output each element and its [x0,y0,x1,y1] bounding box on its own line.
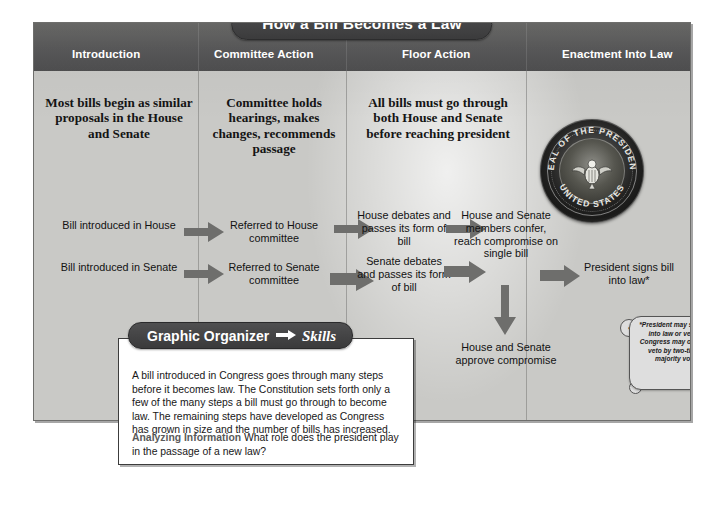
step-president-signs: President signs bill into law* [574,261,684,287]
organizer-question: Analyzing Information What role does the… [132,431,401,458]
organizer-paragraph: A bill introduced in Congress goes throu… [132,369,401,437]
step-bill-introduced-house: Bill introduced in House [56,219,182,232]
organizer-body: A bill introduced in Congress goes throu… [118,338,414,465]
column-header-introduction: Introduction [72,48,140,60]
tab-arrow-icon [276,323,296,348]
presidential-seal-icon: SEAL OF THE PRESIDENT UNITED STATES [540,119,644,223]
arrow-floor-senate-to-conference [444,261,486,283]
footnote-text: *President may sign bill into law or vet… [635,321,691,364]
summary-floor-action: All bills must go through both House and… [354,95,522,141]
column-header-committee-action: Committee Action [214,48,314,60]
eagle-icon [570,155,614,191]
step-approve-compromise: House and Senate approve compromise [454,341,558,367]
graphic-organizer-callout: A bill introduced in Congress goes throu… [118,322,414,465]
organizer-question-label: Analyzing Information [132,432,241,443]
arrow-conference-to-approve [494,285,516,335]
column-header-enactment-into-law: Enactment Into Law [562,48,672,60]
step-senate-debates: Senate debates and passes its form of bi… [356,255,452,293]
step-referred-senate-committee: Referred to Senate committee [210,261,338,287]
step-house-debates: House debates and passes its form of bil… [356,209,452,247]
poster-title: How a Bill Becomes a Law [231,22,492,40]
summary-committee-action: Committee holds hearings, makes changes,… [204,95,344,157]
organizer-tab-skills: Skills [302,328,336,344]
organizer-tab-title: Graphic Organizer [147,328,269,344]
footnote-callout: *President may sign bill into law or vet… [629,316,691,390]
column-header-floor-action: Floor Action [402,48,471,60]
step-conference-committee: House and Senate members confer, reach c… [454,209,558,260]
organizer-tab: Graphic Organizer Skills [128,322,353,349]
step-bill-introduced-senate: Bill introduced in Senate [56,261,182,274]
step-referred-house-committee: Referred to House committee [210,219,338,245]
column-headers: Introduction Committee Action Floor Acti… [34,43,690,71]
summary-introduction: Most bills begin as similar proposals in… [44,95,194,141]
